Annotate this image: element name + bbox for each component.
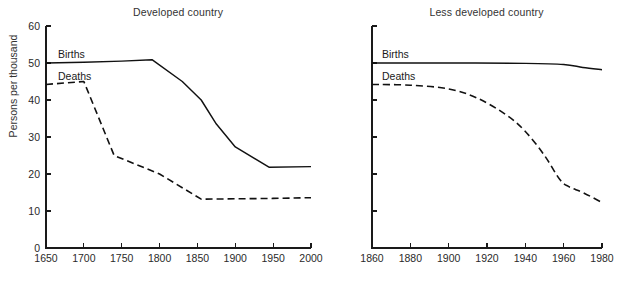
x-ticklabel-1800: 1800 [148,252,172,264]
axis-lines-left [46,26,311,248]
y-ticklabel-10: 10 [28,205,40,217]
x-ticklabel-1700: 1700 [72,252,96,264]
series-labels-left: BirthsDeaths [58,48,91,82]
y-ticklabel-50: 50 [28,57,40,69]
x-ticklabel-1950: 1950 [261,252,285,264]
series-label-births: Births [58,48,85,60]
series-line-births [372,63,602,70]
series-label-deaths: Deaths [58,70,91,82]
x-ticklabel-1650: 1650 [34,252,58,264]
plot-area-left: 0102030405060 16501700175018001850190019… [0,0,330,281]
x-axis-ticklabels-right: 1860188019001920194019601980 [360,252,614,264]
x-ticklabel-1860: 1860 [360,252,384,264]
x-ticklabel-1960: 1960 [552,252,576,264]
x-ticklabel-1850: 1850 [186,252,210,264]
y-ticklabel-20: 20 [28,168,40,180]
series-label-deaths: Deaths [382,70,415,82]
x-ticklabel-2000: 2000 [299,252,323,264]
y-ticklabel-40: 40 [28,94,40,106]
y-ticklabel-60: 60 [28,20,40,32]
x-axis-ticks-right [372,243,602,248]
series-label-births: Births [382,48,409,60]
x-ticklabel-1900: 1900 [224,252,248,264]
x-axis-ticks-left [46,243,311,248]
x-ticklabel-1940: 1940 [514,252,538,264]
series-line-deaths [46,82,311,200]
x-ticklabel-1920: 1920 [475,252,499,264]
series-labels-right: BirthsDeaths [382,48,415,82]
y-axis-ticklabels-left: 0102030405060 [28,20,40,254]
x-ticklabel-1750: 1750 [110,252,134,264]
y-ticklabel-30: 30 [28,131,40,143]
x-ticklabel-1980: 1980 [590,252,614,264]
figure-root: Developed country Persons per thousand 0… [0,0,629,281]
y-axis-ticks-left [46,26,51,248]
chart-panel-developed-country: Developed country Persons per thousand 0… [0,0,330,281]
y-axis-ticks-right [372,26,377,248]
x-ticklabel-1880: 1880 [399,252,423,264]
x-axis-ticklabels-left: 16501700175018001850190019502000 [34,252,323,264]
chart-panel-less-developed-country: Less developed country 18601880190019201… [330,0,629,281]
series-line-deaths [372,84,602,202]
plot-area-right: 1860188019001920194019601980 BirthsDeath… [330,0,629,281]
data-series-right [372,63,602,203]
x-ticklabel-1900: 1900 [437,252,461,264]
axis-spine [46,26,311,248]
